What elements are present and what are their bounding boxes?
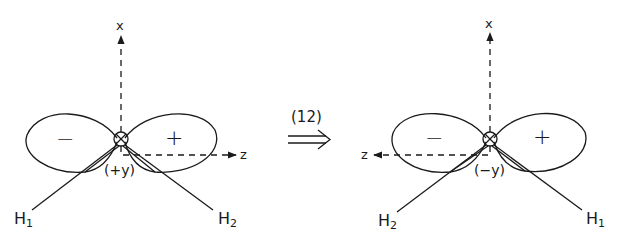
left-molecule	[26, 36, 236, 210]
left-negative-sign: −	[56, 128, 74, 150]
right-h1-label: H1	[586, 211, 605, 229]
right-z-axis-label: z	[361, 148, 368, 161]
right-positive-sign: +	[533, 126, 551, 148]
left-z-axis-label: z	[240, 148, 247, 161]
left-h2-label: H2	[218, 211, 237, 229]
left-h1-label: H1	[14, 211, 33, 229]
left-x-axis-label: x	[116, 19, 124, 32]
left-y-axis-label: (+y)	[104, 163, 135, 177]
right-molecule	[374, 33, 586, 212]
operation-arrow-icon	[288, 130, 330, 149]
right-y-axis-label: (−y)	[474, 163, 505, 177]
operation-label: (12)	[291, 110, 322, 125]
right-h2-label: H2	[378, 213, 397, 231]
right-x-axis-label: x	[485, 17, 493, 30]
right-negative-sign: −	[425, 127, 443, 149]
right-bond-h1	[494, 145, 582, 210]
left-positive-sign: +	[165, 127, 183, 149]
